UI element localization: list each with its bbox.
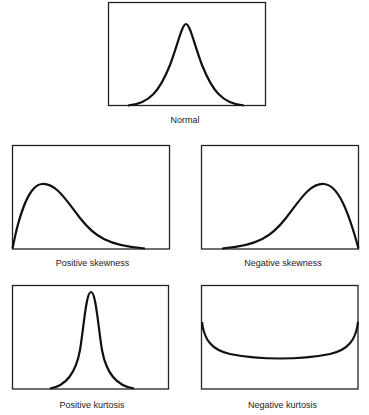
platykurtic-curve bbox=[202, 322, 358, 359]
panel-negative-kurtosis: Negative kurtosis bbox=[0, 0, 369, 415]
negative-kurtosis-graph bbox=[0, 0, 369, 415]
graph-frame bbox=[202, 286, 359, 390]
label-negative-kurtosis: Negative kurtosis bbox=[230, 400, 335, 410]
